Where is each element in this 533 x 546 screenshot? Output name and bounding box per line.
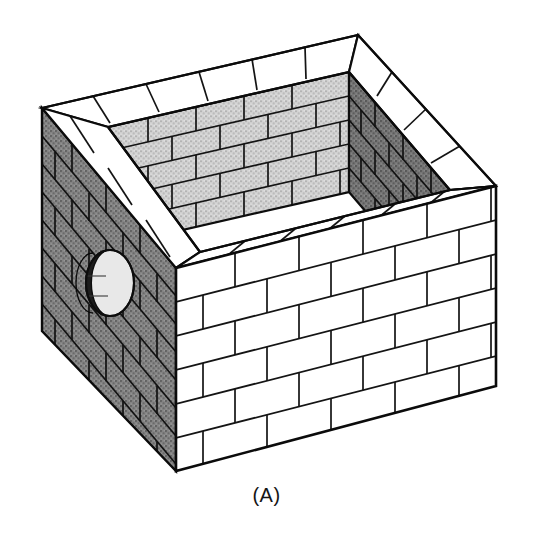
figure-container: (A) <box>0 0 533 546</box>
figure-caption: (A) <box>0 484 533 507</box>
masonry-box-illustration <box>0 0 533 546</box>
